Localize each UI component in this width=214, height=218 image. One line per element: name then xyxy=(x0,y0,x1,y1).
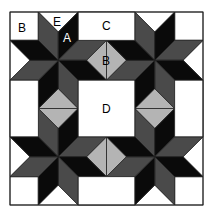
rectangle-bottom xyxy=(78,177,135,205)
quilt-block-diagram xyxy=(0,0,214,218)
center-square-d xyxy=(78,80,135,137)
rectangle-right xyxy=(175,80,203,137)
corner-square xyxy=(10,177,38,205)
rectangle-c-top xyxy=(78,12,135,40)
corner-square xyxy=(175,177,203,205)
corner-square xyxy=(175,12,203,40)
rectangle-left xyxy=(10,80,38,137)
corner-square xyxy=(10,12,38,40)
